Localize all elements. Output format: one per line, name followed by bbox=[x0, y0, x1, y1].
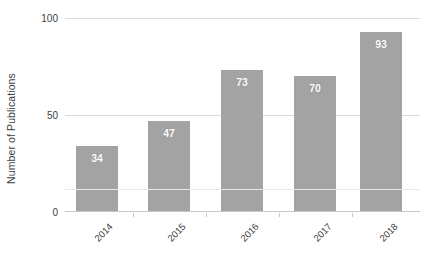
x-tick-label-2017: 2017 bbox=[291, 221, 334, 257]
x-tick-label-2016: 2016 bbox=[218, 221, 261, 257]
bar-2015[interactable]: 47 bbox=[148, 121, 190, 212]
y-tick-label-50: 50 bbox=[19, 110, 65, 121]
plot-area: 34 47 73 70 93 bbox=[65, 18, 420, 212]
x-tick-mark-3 bbox=[279, 213, 280, 217]
gridline-minor-12 bbox=[65, 189, 420, 190]
bar-2014[interactable]: 34 bbox=[76, 146, 118, 212]
bar-chart: Number of Publications 100 50 0 34 47 73… bbox=[0, 0, 436, 257]
x-tick-mark-4 bbox=[352, 213, 353, 217]
y-tick-label-0: 0 bbox=[19, 207, 65, 218]
bar-value-2018: 93 bbox=[360, 38, 402, 50]
bar-value-2017: 70 bbox=[294, 82, 336, 94]
bar-2016[interactable]: 73 bbox=[221, 70, 263, 212]
bar-value-2014: 34 bbox=[76, 152, 118, 164]
x-tick-label-2014: 2014 bbox=[72, 221, 115, 257]
x-axis-line bbox=[65, 211, 420, 212]
x-tick-label-2015: 2015 bbox=[145, 221, 188, 257]
x-tick-mark-2 bbox=[206, 213, 207, 217]
bar-2017[interactable]: 70 bbox=[294, 76, 336, 212]
x-tick-label-2018: 2018 bbox=[357, 221, 400, 257]
x-tick-mark-1 bbox=[133, 213, 134, 217]
y-axis-tick-labels: 100 50 0 bbox=[0, 18, 65, 212]
gridline-100 bbox=[65, 18, 420, 19]
bar-value-2015: 47 bbox=[148, 127, 190, 139]
bar-2018[interactable]: 93 bbox=[360, 32, 402, 212]
x-axis-tick-labels: 2014 2015 2016 2017 2018 bbox=[65, 213, 420, 257]
y-tick-label-100: 100 bbox=[19, 13, 65, 24]
bar-value-2016: 73 bbox=[221, 76, 263, 88]
